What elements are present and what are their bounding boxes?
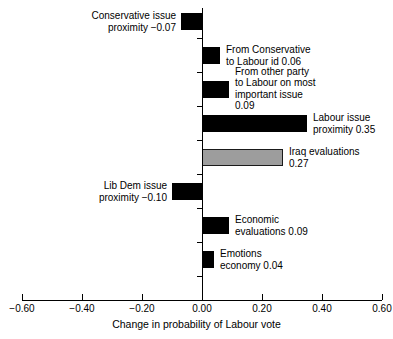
x-tick-0 [22,294,23,300]
x-tick-label-0: −0.60 [0,303,47,315]
bar-label-4: Iraq evaluations 0.27 [289,146,360,169]
bar-6 [202,217,229,234]
x-tick-label-2: −0.20 [117,303,167,315]
bar-label-2: From other party to Labour on most impor… [235,66,316,112]
bar-2 [202,81,229,98]
bar-label-3: Labour issue proximity 0.35 [313,112,375,135]
x-tick-6 [382,294,383,300]
bar-label-7: Emotions economy 0.04 [220,248,283,271]
bar-label-6: Economic evaluations 0.09 [235,214,308,237]
zero-axis-line [202,8,203,300]
bar-label-5: Lib Dem issue proximity −0.10 [99,180,167,203]
x-tick-5 [322,294,323,300]
bar-label-1: From Conservative to Labour id 0.06 [226,44,310,67]
x-axis-line [22,300,382,301]
x-axis-title: Change in probability of Labour vote [0,318,393,330]
x-tick-1 [82,294,83,300]
bar-3 [202,115,307,132]
bar-0 [181,13,202,30]
bar-1 [202,47,220,64]
x-tick-2 [142,294,143,300]
x-tick-label-4: 0.20 [237,303,287,315]
x-tick-3 [202,294,203,300]
bar-4 [202,149,283,166]
x-tick-label-3: 0.00 [177,303,227,315]
x-tick-label-1: −0.40 [57,303,107,315]
x-tick-4 [262,294,263,300]
figure-caption-sliver [10,333,210,339]
x-tick-label-6: 0.60 [357,303,393,315]
bar-7 [202,251,214,268]
x-tick-label-5: 0.40 [297,303,347,315]
bar-5 [172,183,202,200]
bar-label-0: Conservative issue proximity −0.07 [92,10,176,33]
bar-chart-figure: Conservative issue proximity −0.07From C… [0,0,393,339]
